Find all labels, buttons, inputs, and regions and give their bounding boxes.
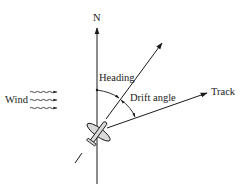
diagram-graphics — [0, 0, 242, 192]
airplane-icon — [79, 114, 117, 151]
wind-arrows — [30, 91, 57, 108]
drift-angle-label: Drift angle — [130, 93, 176, 104]
track-label: Track — [211, 87, 235, 98]
heading-angle-arc — [96, 89, 119, 98]
wind-drift-diagram: N Heading Drift angle Track Wind — [0, 0, 242, 192]
north-label: N — [93, 13, 101, 24]
wind-label: Wind — [5, 95, 28, 106]
heading-label: Heading — [99, 73, 135, 84]
